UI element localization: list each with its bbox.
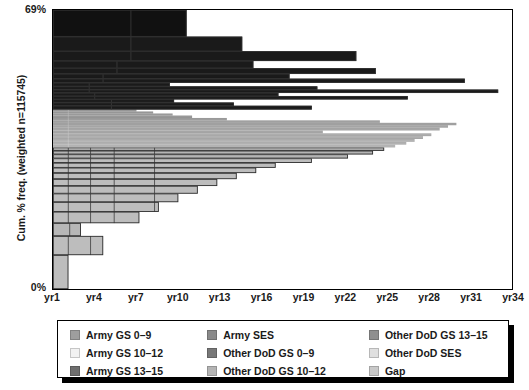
x-axis-tick-yr28: yr28 (407, 291, 451, 303)
legend-item-label: Army GS 10–12 (86, 347, 163, 359)
legend-swatch-icon (207, 348, 217, 358)
table-row (53, 194, 178, 202)
bar-segment (53, 173, 237, 179)
table-row (53, 99, 174, 102)
legend-swatch-icon (369, 348, 379, 358)
bar-segment (53, 51, 356, 61)
table-row (53, 106, 312, 110)
table-row (53, 120, 380, 122)
table-row (53, 116, 192, 118)
bar-segment (53, 223, 81, 236)
legend-item[interactable]: Other DoD GS 13–15 (369, 327, 508, 342)
legend-item-label: Gap (385, 365, 405, 377)
table-row (53, 68, 376, 74)
x-axis-tick-yr31: yr31 (449, 291, 493, 303)
x-axis-tick-yr19: yr19 (281, 291, 325, 303)
table-row (53, 79, 465, 83)
table-row (53, 173, 237, 179)
table-row (53, 145, 395, 148)
table-row (53, 136, 423, 139)
x-axis-tick-yr1: yr1 (30, 291, 74, 303)
table-row (53, 147, 384, 150)
legend-swatch-icon (207, 330, 217, 340)
table-row (53, 125, 448, 127)
legend-column-3: Other DoD GS 13–15Other DoD SESGap (369, 327, 508, 378)
legend-item-label: Other DoD GS 0–9 (223, 347, 314, 359)
table-row (53, 212, 139, 223)
legend-column-2: Army SESOther DoD GS 0–9Other DoD GS 10–… (207, 327, 363, 378)
table-row (53, 142, 406, 145)
bar-segment (53, 10, 187, 37)
table-row (53, 158, 312, 162)
x-axis-tick-yr22: yr22 (323, 291, 367, 303)
legend-item-label: Other DoD GS 13–15 (385, 329, 488, 341)
table-row (53, 111, 153, 113)
table-row (53, 255, 68, 289)
legend-swatch-icon (369, 330, 379, 340)
legend-item[interactable]: Gap (369, 363, 508, 378)
bar-segment (53, 37, 242, 52)
legend-item-label: Other DoD GS 10–12 (223, 365, 326, 377)
table-row (53, 151, 373, 155)
plot-area (52, 9, 513, 290)
x-axis-tick-yr34: yr34 (491, 291, 529, 303)
legend-item[interactable]: Army GS 0–9 (70, 327, 207, 342)
legend-item-label: Army GS 13–15 (86, 365, 163, 377)
bar-segment (53, 61, 253, 68)
table-row (53, 118, 227, 120)
legend-item[interactable]: Other DoD SES (369, 345, 508, 360)
x-axis-tick-yr7: yr7 (114, 291, 158, 303)
table-row (53, 114, 173, 116)
bar-segment (53, 68, 376, 74)
table-row (53, 90, 498, 93)
table-row (53, 168, 256, 173)
legend-item[interactable]: Army GS 10–12 (70, 345, 207, 360)
x-axis-ticks: yr1yr4yr7yr10yr13yr16yr19yr22yr25yr28yr3… (52, 291, 513, 309)
bar-segment (53, 236, 103, 255)
legend-item[interactable]: Other DoD GS 0–9 (207, 345, 363, 360)
table-row (53, 130, 323, 133)
x-axis-tick-yr4: yr4 (72, 291, 116, 303)
table-row (53, 223, 81, 236)
legend-swatch-icon (207, 366, 217, 376)
chart-legend: Army GS 0–9Army GS 10–12Army GS 13–15 Ar… (57, 320, 509, 378)
legend-item[interactable]: Army SES (207, 327, 363, 342)
x-axis-tick-yr25: yr25 (365, 291, 409, 303)
bar-segment (53, 179, 217, 186)
x-axis-tick-yr10: yr10 (156, 291, 200, 303)
table-row (53, 179, 217, 186)
table-row (53, 61, 253, 68)
table-row (53, 93, 278, 96)
table-row (53, 139, 415, 142)
bar-segment (53, 202, 159, 212)
table-row (53, 202, 159, 212)
table-row (53, 86, 317, 89)
bar-segment (53, 212, 139, 223)
y-axis-tick-top: 69% (8, 3, 46, 15)
table-row (53, 133, 431, 136)
legend-column-1: Army GS 0–9Army GS 10–12Army GS 13–15 (70, 327, 207, 378)
bar-segment (53, 255, 68, 289)
legend-item-label: Army SES (223, 329, 274, 341)
table-row (53, 128, 440, 131)
table-row (53, 109, 136, 111)
legend-item[interactable]: Other DoD GS 10–12 (207, 363, 363, 378)
table-row (53, 96, 408, 99)
table-row (53, 74, 289, 79)
table-row (53, 103, 234, 106)
legend-swatch-icon (70, 348, 80, 358)
table-row (53, 154, 348, 158)
table-row (53, 51, 356, 61)
legend-swatch-icon (70, 330, 80, 340)
x-axis-tick-yr16: yr16 (240, 291, 284, 303)
stacked-bar-plot (53, 10, 512, 289)
y-axis-title: Cum. % freq. (weighted n=115745) (15, 43, 27, 273)
legend-item-label: Other DoD SES (385, 347, 461, 359)
table-row (53, 123, 456, 125)
table-row (53, 186, 198, 194)
legend-item[interactable]: Army GS 13–15 (70, 363, 207, 378)
bar-segment (53, 186, 198, 194)
table-row (53, 236, 103, 255)
legend-swatch-icon (369, 366, 379, 376)
